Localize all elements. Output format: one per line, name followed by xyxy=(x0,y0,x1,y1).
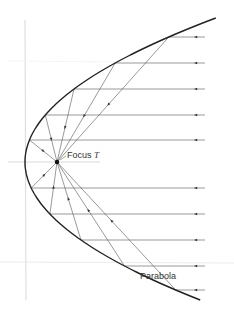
focus-label: Focus T xyxy=(67,150,99,160)
arrowhead-icon xyxy=(67,197,69,200)
arrowhead-icon xyxy=(194,62,197,65)
arrowhead-icon xyxy=(194,213,197,216)
arrowhead-icon xyxy=(194,239,197,242)
arrowhead-icon xyxy=(194,265,197,268)
arrowhead-icon xyxy=(87,209,90,212)
focus-symbol: T xyxy=(94,150,99,160)
parabola-diagram xyxy=(0,0,234,316)
ray-segment xyxy=(57,162,81,240)
parabola-label: Parabola xyxy=(140,271,176,281)
arrowhead-icon xyxy=(83,114,86,117)
arrowhead-icon xyxy=(194,139,197,142)
ray-segment xyxy=(57,37,169,162)
arrowhead-icon xyxy=(194,36,197,39)
focus-point xyxy=(55,160,59,164)
ray-segment xyxy=(57,63,115,162)
arrowhead-icon xyxy=(194,289,197,292)
arrowhead-icon xyxy=(194,114,197,117)
arrowhead-icon xyxy=(52,185,55,188)
arrowhead-icon xyxy=(194,187,197,190)
arrowhead-icon xyxy=(194,88,197,91)
